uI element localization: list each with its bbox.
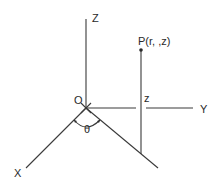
r-projection-line (86, 108, 158, 168)
z-axis-label: Z (92, 12, 99, 24)
point-p-label: P(r, ,z) (138, 35, 170, 47)
z-height-label: z (144, 92, 150, 104)
origin-label: O (74, 94, 83, 106)
theta-label: θ (84, 123, 90, 135)
y-axis-label: Y (200, 103, 208, 115)
point-p-marker (139, 48, 143, 52)
x-axis-label: X (14, 167, 22, 179)
x-axis (26, 108, 86, 168)
cylindrical-coordinates-diagram: Z Y X O P(r, ,z) z θ (0, 0, 219, 186)
